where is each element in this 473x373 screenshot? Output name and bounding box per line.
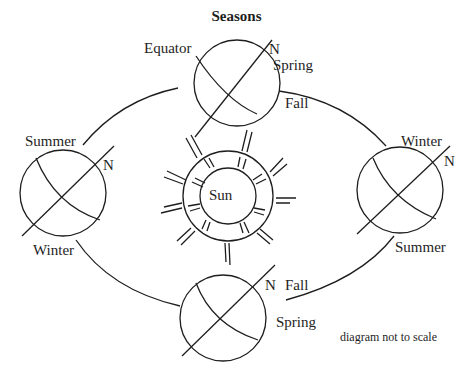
left-season-summer: Summer (25, 134, 76, 149)
diagram-title: Seasons (0, 8, 473, 25)
orbit-arc-left-bottom (76, 240, 180, 306)
top-north-label: N (269, 42, 280, 57)
right-north-label: N (444, 154, 455, 169)
bottom-season-spring: Spring (276, 315, 316, 330)
top-season-fall: Fall (285, 96, 308, 111)
earth-top (194, 40, 280, 137)
orbit-arc-top-left (83, 88, 178, 145)
earth-left (20, 146, 114, 236)
left-season-winter: Winter (33, 243, 74, 258)
seasons-diagram (0, 0, 473, 373)
earth-right (357, 146, 450, 234)
bottom-north-label: N (265, 278, 276, 293)
equator-label: Equator (144, 41, 191, 56)
right-season-summer: Summer (395, 240, 446, 255)
sun-label: Sun (209, 188, 232, 203)
top-season-spring: Spring (273, 58, 313, 73)
left-north-label: N (103, 158, 114, 173)
earth-bottom (180, 265, 275, 361)
bottom-season-fall: Fall (285, 278, 308, 293)
scale-note: diagram not to scale (340, 330, 437, 345)
right-season-winter: Winter (401, 134, 442, 149)
